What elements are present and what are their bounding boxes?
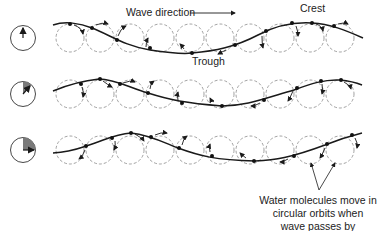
wave-line-row-1 — [53, 23, 363, 54]
particles-row-2 — [79, 77, 343, 108]
note-line-1: Water molecules move in — [258, 194, 378, 207]
clock-icon-row-2 — [11, 82, 36, 107]
crest-label: Crest — [300, 3, 325, 14]
clock-icon-row-3 — [11, 138, 36, 163]
wave-direction-label: Wave direction — [126, 7, 195, 18]
orbit-explanation-note: Water molecules move in circular orbits … — [258, 194, 378, 231]
note-line-3: wave passes by — [258, 220, 378, 231]
note-line-2: circular orbits when — [258, 207, 378, 220]
clock-icon-row-1 — [11, 26, 36, 51]
orbits-row-1 — [56, 24, 354, 52]
wave-line-row-2 — [53, 79, 362, 106]
callout-pointer-lines — [311, 163, 335, 190]
trough-label: Trough — [192, 56, 225, 67]
